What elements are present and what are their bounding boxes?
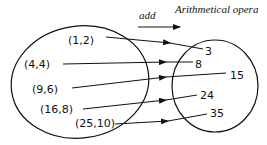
codomain-element: 35	[210, 107, 224, 120]
domain-element: (16,8)	[40, 103, 73, 116]
mapping-arrow-icon	[72, 77, 166, 88]
mapping-arrow-icon	[106, 37, 170, 43]
mapping-diagram: Arithmetical opera add (1,2) (4,4) (9,6)…	[0, 0, 267, 145]
domain-element: (25,10)	[75, 117, 115, 130]
mapping-arrow-icon	[63, 62, 166, 64]
diagram-title: Arithmetical opera	[174, 3, 259, 15]
codomain-element: 24	[200, 89, 214, 102]
codomain-element: 15	[230, 69, 244, 82]
domain-element: (1,2)	[68, 34, 94, 47]
mapping-arrows	[63, 37, 226, 124]
mapping-arrow-line	[168, 114, 207, 121]
codomain-element: 8	[195, 58, 202, 71]
codomain-element: 3	[205, 45, 212, 58]
operation-label: add	[139, 9, 156, 21]
domain-element: (9,6)	[32, 83, 58, 96]
mapping-arrow-icon	[115, 121, 168, 124]
mapping-arrow-icon	[83, 100, 166, 109]
mapping-arrow-line	[166, 95, 197, 100]
domain-element: (4,4)	[24, 58, 50, 71]
mapping-arrow-line	[166, 73, 226, 77]
